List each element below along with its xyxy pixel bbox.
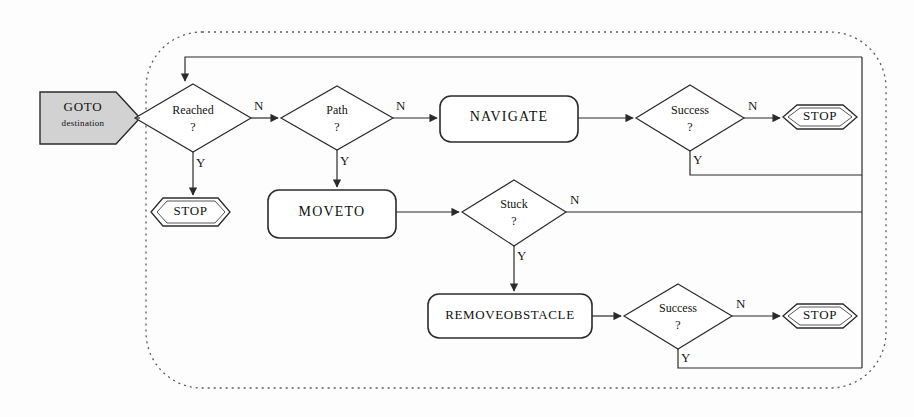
branch-label-reached-no: N [254,98,263,114]
stop1-label: STOP [151,204,230,218]
branch-label-success2-yes: Y [681,350,690,366]
moveto-label: MOVETO [268,205,396,220]
stuck-label: Stuck [474,198,554,211]
navigate-label: NAVIGATE [440,110,578,125]
edge-success1-loop [690,151,862,175]
reached-label: Reached [148,104,238,117]
flowchart-graphics [0,0,914,417]
path-shape [281,86,393,150]
branch-label-success1-no: N [748,98,757,114]
success2-shape [624,284,732,349]
goto-label: GOTO [40,100,126,114]
path-label: Path [297,104,377,117]
flowchart-canvas: GOTO destination Reached ? STOP Path ? N… [0,0,914,417]
stuck-shape [462,180,566,246]
edge-success2-loop [678,349,862,368]
removeobstacle-label: REMOVEOBSTACLE [428,308,592,322]
path-label2: ? [297,121,377,134]
success1-label2: ? [645,121,735,134]
success2-label: Success [633,302,723,315]
branch-label-path-yes: Y [340,153,349,169]
stop3-label: STOP [783,308,857,322]
branch-label-reached-yes: Y [196,155,205,171]
branch-label-stuck-yes: Y [517,248,526,264]
branch-label-stuck-no: N [570,192,579,208]
stuck-label2: ? [474,215,554,228]
success2-label2: ? [633,319,723,332]
branch-label-success1-yes: Y [693,152,702,168]
reached-shape [135,84,251,152]
branch-label-path-no: N [396,98,405,114]
branch-label-success2-no: N [736,296,745,312]
goto-sublabel: destination [40,119,126,128]
reached-label2: ? [148,121,238,134]
success1-label: Success [645,104,735,117]
success1-shape [636,85,744,151]
edge-return-top [185,57,862,81]
stop2-label: STOP [783,109,857,123]
